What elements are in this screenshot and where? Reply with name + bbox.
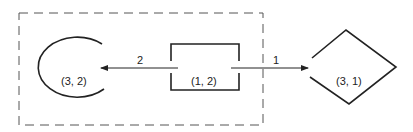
open-circle-shape	[38, 37, 104, 97]
node-label: (3, 2)	[61, 75, 87, 87]
edge-label: 1	[273, 54, 279, 66]
edge-2: 2	[101, 54, 178, 68]
node-label: (1, 2)	[191, 75, 217, 87]
node-rectangle-1-2: (1, 2)	[171, 44, 239, 90]
diagram-canvas: (3, 2) (1, 2) (3, 1) 2 1	[0, 0, 413, 132]
node-circle-3-2: (3, 2)	[38, 37, 104, 97]
edge-label: 2	[137, 54, 143, 66]
edge-1: 1	[231, 54, 308, 68]
dashed-group-box	[19, 13, 263, 125]
open-diamond-shape	[310, 30, 396, 104]
node-diamond-3-1: (3, 1)	[310, 30, 396, 104]
node-label: (3, 1)	[336, 75, 362, 87]
open-rectangle-top	[171, 44, 239, 61]
